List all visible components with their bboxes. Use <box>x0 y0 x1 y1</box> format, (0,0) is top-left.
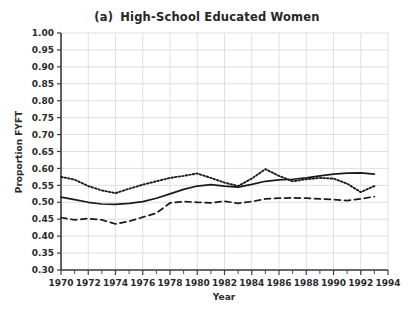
y-tick-label: 0.90 <box>32 62 54 72</box>
y-tick-label: 0.60 <box>32 164 54 174</box>
x-axis-title: Year <box>212 292 236 302</box>
x-tick-label: 1976 <box>130 278 155 288</box>
x-tick-label: 1972 <box>76 278 101 288</box>
y-tick-label: 0.95 <box>32 45 54 55</box>
y-tick-label: 0.70 <box>32 130 54 140</box>
y-tick-label: 0.40 <box>32 231 54 241</box>
y-tick-label: 0.75 <box>32 113 54 123</box>
y-tick-label: 0.80 <box>32 96 54 106</box>
y-tick-label: 0.50 <box>32 197 54 207</box>
y-tick-labels: 1.000.950.900.850.800.750.700.650.600.55… <box>32 28 54 275</box>
x-tick-label: 1990 <box>321 278 346 288</box>
x-tick-label: 1970 <box>48 278 73 288</box>
y-tick-label: 0.85 <box>32 79 54 89</box>
x-tick-label: 1986 <box>266 278 291 288</box>
y-tick-label: 0.55 <box>32 181 54 191</box>
x-tick-label: 1992 <box>348 278 373 288</box>
x-tick-label: 1984 <box>239 278 264 288</box>
y-axis-title: Proportion FYFT <box>14 110 24 193</box>
y-tick-label: 0.30 <box>32 265 54 275</box>
x-tick-labels: 1970197219741976197819801982198419861988… <box>48 278 400 288</box>
x-tick-label: 1988 <box>294 278 319 288</box>
x-tick-label: 1994 <box>375 278 400 288</box>
plot-area: 1.000.950.900.850.800.750.700.650.600.55… <box>0 0 414 314</box>
y-tick-label: 0.35 <box>32 248 54 258</box>
y-tick-label: 0.65 <box>32 147 54 157</box>
x-tick-label: 1974 <box>103 278 128 288</box>
x-tick-label: 1982 <box>212 278 237 288</box>
x-tick-label: 1978 <box>157 278 182 288</box>
chart-figure: (a)High-School Educated Women 1.000.950.… <box>0 0 414 314</box>
x-tick-label: 1980 <box>185 278 210 288</box>
y-tick-label: 1.00 <box>32 28 54 38</box>
data-series-group <box>61 169 374 224</box>
series-dotted <box>61 169 374 193</box>
y-tick-label: 0.45 <box>32 214 54 224</box>
series-dashed <box>61 197 374 224</box>
